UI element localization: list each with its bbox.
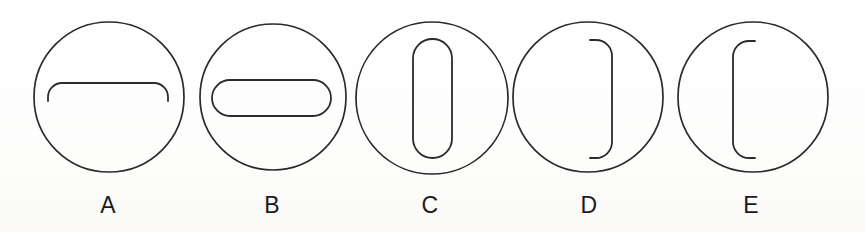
circle-outline-a xyxy=(34,22,184,172)
panel-a xyxy=(34,22,184,172)
circle-outline-b xyxy=(200,24,346,170)
panel-b xyxy=(200,24,346,170)
circle-outline-d xyxy=(513,22,663,172)
panel-label-b: B xyxy=(242,194,302,217)
panel-label-e: E xyxy=(721,194,781,217)
circle-outline-e xyxy=(678,22,828,172)
right-bracket-open-left-icon xyxy=(590,40,612,158)
left-bracket-open-right-icon xyxy=(733,41,755,158)
panel-label-a: A xyxy=(78,194,138,217)
panel-label-d: D xyxy=(559,194,619,217)
panel-d xyxy=(513,22,663,172)
vertical-stadium-icon xyxy=(413,39,452,158)
horizontal-stadium-icon xyxy=(212,80,331,116)
panel-c xyxy=(356,22,508,174)
panel-e xyxy=(678,22,828,172)
open-arch-downward-ends-icon xyxy=(48,83,168,101)
panel-label-c: C xyxy=(400,194,460,217)
figure-container: A B C D E xyxy=(0,0,865,232)
circle-outline-c xyxy=(356,22,508,174)
